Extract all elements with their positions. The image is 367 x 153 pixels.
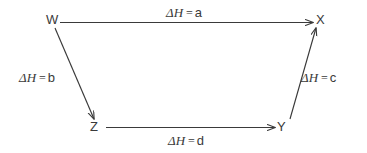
- enthalpy-value-b: b: [48, 70, 55, 85]
- vertex-label-y: Y: [277, 120, 286, 133]
- edge-label-z-to-y: ΔH=d: [168, 134, 204, 148]
- vertex-label-x: X: [316, 13, 325, 26]
- edge-label-w-to-x: ΔH=a: [166, 6, 202, 20]
- edge-label-w-to-z: ΔH=b: [19, 71, 55, 85]
- vertex-label-z: Z: [90, 120, 98, 133]
- equals-sign-d: =: [185, 134, 197, 148]
- equals-sign-b: =: [36, 71, 48, 85]
- enthalpy-value-a: a: [195, 5, 202, 20]
- edge-label-y-to-x: ΔH=c: [301, 71, 336, 85]
- delta-h-symbol-b: ΔH: [19, 70, 36, 85]
- delta-h-symbol-d: ΔH: [168, 133, 185, 148]
- equals-sign-c: =: [318, 71, 330, 85]
- enthalpy-value-c: c: [330, 70, 337, 85]
- hess-cycle-diagram: W X Z Y ΔH=a ΔH=b ΔH=c ΔH=d: [0, 0, 367, 153]
- vertex-label-w: W: [46, 13, 58, 26]
- equals-sign-a: =: [183, 6, 195, 20]
- delta-h-symbol-a: ΔH: [166, 5, 183, 20]
- arrow-w-to-z: [55, 28, 94, 119]
- enthalpy-value-d: d: [197, 133, 204, 148]
- delta-h-symbol-c: ΔH: [301, 70, 318, 85]
